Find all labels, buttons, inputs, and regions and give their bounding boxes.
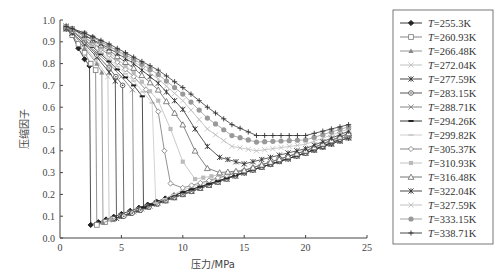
y-tick-label: 1.0 [43, 15, 56, 26]
series-line [64, 26, 352, 225]
x-axis-title: 压力/MPa [191, 258, 235, 270]
axes: 0.00.10.20.30.40.50.60.70.80.91.0 051015… [18, 15, 372, 271]
x-tick-label: 15 [239, 242, 249, 253]
plot-area [63, 24, 351, 228]
y-tick-label: 0.1 [43, 211, 56, 222]
legend-label: T=299.82K [428, 130, 477, 141]
x-tick-label: 10 [178, 242, 188, 253]
series-line [64, 26, 352, 227]
series-line [64, 24, 352, 138]
series-line [63, 24, 351, 175]
series-line [64, 26, 352, 223]
compressibility-chart: 0.00.10.20.30.40.50.60.70.80.91.0 051015… [0, 0, 497, 278]
legend-label: T=283.15K [428, 88, 477, 99]
series-line [64, 26, 351, 227]
legend: T=255.3KT=260.93KT=266.48KT=272.04KT=277… [393, 10, 493, 244]
y-tick-label: 0.8 [43, 58, 56, 69]
legend-label: T=322.04K [428, 186, 477, 197]
y-tick-label: 0.6 [43, 102, 56, 113]
y-tick-label: 0.7 [43, 80, 56, 91]
legend-label: T=288.71K [428, 102, 477, 113]
legend-label: T=255.3K [428, 18, 471, 29]
y-axis-title: 压缩因子 [18, 109, 30, 149]
y-tick-label: 0.4 [43, 145, 56, 156]
y-tick-label: 0.9 [43, 36, 56, 47]
x-tick-label: 0 [58, 242, 63, 253]
legend-label: T=316.48K [428, 172, 477, 183]
legend-label: T=327.59K [428, 200, 477, 211]
series-line [64, 24, 352, 145]
legend-label: T=305.37K [428, 144, 477, 155]
x-tick-label: 20 [301, 242, 311, 253]
legend-label: T=277.59K [428, 74, 477, 85]
y-tick-label: 0.0 [43, 233, 56, 244]
y-tick-label: 0.5 [43, 124, 56, 135]
y-tick-label: 0.3 [43, 167, 56, 178]
x-tick-label: 5 [119, 242, 124, 253]
legend-label: T=310.93K [428, 158, 477, 169]
x-tick-label: 25 [362, 242, 372, 253]
legend-label: T=260.93K [428, 32, 477, 43]
legend-label: T=266.48K [428, 46, 477, 57]
legend-label: T=294.26K [428, 116, 477, 127]
legend-label: T=333.15K [428, 214, 477, 225]
legend-label: T=272.04K [428, 60, 477, 71]
y-tick-label: 0.2 [43, 189, 56, 200]
legend-label: T=338.71K [428, 228, 477, 239]
